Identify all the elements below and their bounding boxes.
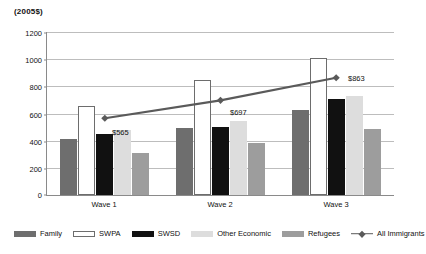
chart-container: (2005$) 1200 1000 800 600 400 200 (0, 0, 426, 254)
bar-family-wave-2 (176, 128, 193, 195)
legend-item-other-economic: Other Economic (191, 229, 271, 238)
bar-swpa-wave-3 (310, 58, 327, 195)
x-axis-labels: Wave 1 Wave 2 Wave 3 (46, 200, 394, 209)
legend-label-all-immigrants: All Immigrants (377, 229, 425, 238)
legend-item-swsd: SWSD (132, 229, 181, 238)
chart-legend: Family SWPA SWSD Other Economic Refugees… (14, 229, 414, 238)
other-economic-swatch-icon (191, 231, 213, 237)
plot-area: 1200 1000 800 600 400 200 0 (46, 32, 394, 196)
bar-swsd-wave-1 (96, 134, 113, 195)
family-swatch-icon (14, 231, 36, 237)
x-label-wave-1: Wave 1 (46, 200, 162, 209)
legend-item-family: Family (14, 229, 62, 238)
bar-swpa-wave-1 (78, 106, 95, 195)
y-axis-title: (2005$) (14, 7, 43, 16)
all-immigrants-line-swatch-icon (351, 230, 373, 238)
data-label-wave-3: $863 (348, 74, 365, 83)
y-tick-label-200: 200 (29, 164, 47, 173)
bar-swsd-wave-2 (212, 127, 229, 195)
swsd-swatch-icon (132, 231, 154, 237)
legend-label-family: Family (40, 229, 62, 238)
bar-other-economic-wave-3 (346, 96, 363, 195)
legend-label-refugees: Refugees (308, 229, 340, 238)
bar-swpa-wave-2 (194, 80, 211, 195)
bar-refugees-wave-1 (132, 153, 149, 195)
legend-item-all-immigrants: All Immigrants (351, 229, 425, 238)
bar-group-wave-3 (278, 32, 394, 195)
x-label-wave-2: Wave 2 (162, 200, 278, 209)
y-tick-label-0: 0 (38, 191, 47, 200)
bar-other-economic-wave-2 (230, 121, 247, 195)
y-tick-label-1000: 1000 (25, 56, 47, 65)
bar-group-wave-2 (163, 32, 279, 195)
refugees-swatch-icon (282, 231, 304, 237)
data-label-wave-2: $697 (230, 107, 247, 116)
y-tick-label-1200: 1200 (25, 29, 47, 38)
y-tick-label-400: 400 (29, 137, 47, 146)
bar-other-economic-wave-1 (114, 130, 131, 195)
legend-item-refugees: Refugees (282, 229, 340, 238)
y-tick-label-800: 800 (29, 83, 47, 92)
bar-refugees-wave-2 (248, 143, 265, 195)
bar-refugees-wave-3 (364, 129, 381, 195)
bar-groups (47, 32, 394, 195)
data-label-wave-1: $565 (112, 127, 129, 136)
legend-label-swpa: SWPA (99, 229, 121, 238)
y-tick-label-600: 600 (29, 110, 47, 119)
bar-group-wave-1 (47, 32, 163, 195)
x-label-wave-3: Wave 3 (278, 200, 394, 209)
bar-family-wave-1 (60, 139, 77, 195)
legend-item-swpa: SWPA (73, 229, 121, 238)
bar-family-wave-3 (292, 110, 309, 195)
bar-swsd-wave-3 (328, 99, 345, 195)
legend-label-swsd: SWSD (158, 229, 181, 238)
legend-label-other-economic: Other Economic (217, 229, 271, 238)
swpa-swatch-icon (73, 231, 95, 237)
